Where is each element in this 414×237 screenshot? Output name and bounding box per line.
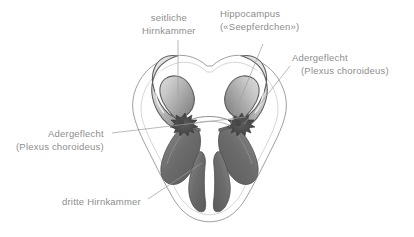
illustration-page: seitliche Hirnkammer Hippocampus («Seepf… [0, 0, 414, 237]
left-hippocampus [161, 128, 206, 211]
label-hippocampus: Hippocampus («Seepferdchen») [220, 8, 299, 33]
label-line-2: (Plexus choroideus) [16, 141, 104, 154]
label-line-1: Adergeflecht [292, 52, 389, 65]
label-line-2: (Plexus choroideus) [292, 65, 389, 78]
label-line-2: («Seepferdchen») [220, 21, 299, 34]
label-adergeflecht-rechts: Adergeflecht (Plexus choroideus) [292, 52, 389, 77]
brain-outline [133, 55, 287, 221]
label-adergeflecht-links: Adergeflecht (Plexus choroideus) [16, 128, 104, 153]
label-line-1: seitliche [142, 12, 196, 25]
label-dritte-hirnkammer: dritte Hirnkammer [62, 196, 141, 209]
label-line-2: Hirnkammer [142, 25, 196, 38]
label-seitliche-hirnkammer: seitliche Hirnkammer [142, 12, 196, 37]
right-hippocampus [213, 128, 258, 211]
label-line-1: Hippocampus [220, 8, 299, 21]
label-line-1: dritte Hirnkammer [62, 196, 141, 209]
label-line-1: Adergeflecht [16, 128, 104, 141]
